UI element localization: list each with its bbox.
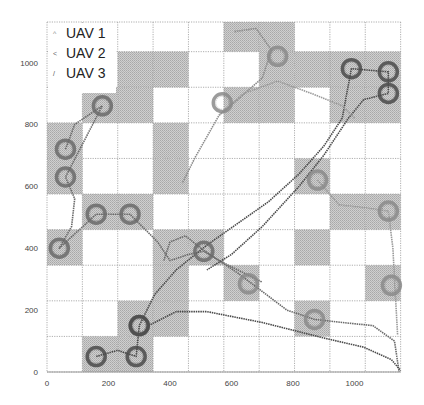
x-tick-label: 600 xyxy=(225,379,239,388)
shaded-cell xyxy=(153,265,188,301)
shaded-cell xyxy=(118,52,153,88)
shaded-cell xyxy=(47,230,82,266)
legend-label: UAV 3 xyxy=(66,65,106,81)
y-tick-label: 600 xyxy=(25,182,39,191)
shaded-cell xyxy=(224,265,259,301)
x-tick-label: 200 xyxy=(102,379,116,388)
legend-label: UAV 1 xyxy=(66,25,106,41)
x-tick-label: 800 xyxy=(286,379,300,388)
shaded-cell xyxy=(153,123,188,159)
shaded-cell xyxy=(295,52,330,88)
shaded-cell xyxy=(295,230,330,266)
shaded-cell xyxy=(365,87,400,123)
shaded-cell xyxy=(224,22,259,52)
y-axis-ticks: 02004006008001000 xyxy=(20,59,38,378)
shaded-cell xyxy=(330,87,365,123)
legend: ^UAV 1<UAV 2/UAV 3 xyxy=(48,23,116,93)
shaded-cell xyxy=(153,301,188,337)
legend-marker-icon: < xyxy=(53,50,57,57)
x-tick-label: 400 xyxy=(163,379,177,388)
x-tick-label: 0 xyxy=(45,379,50,388)
shaded-cell xyxy=(365,194,400,230)
shaded-cell xyxy=(153,158,188,194)
trajectory-path xyxy=(59,106,399,372)
shaded-cell xyxy=(153,230,188,266)
x-tick-label: 1000 xyxy=(346,379,364,388)
y-tick-label: 200 xyxy=(25,306,39,315)
shaded-cell xyxy=(47,158,82,194)
shaded-cell xyxy=(224,87,259,123)
legend-marker-icon: / xyxy=(53,70,55,77)
shaded-cell xyxy=(118,87,153,123)
x-axis-ticks: 02004006008001000 xyxy=(45,379,364,388)
y-tick-label: 400 xyxy=(25,244,39,253)
legend-label: UAV 2 xyxy=(66,45,106,61)
y-tick-label: 0 xyxy=(34,368,39,377)
shaded-cell xyxy=(259,87,294,123)
trajectory-chart: 02004006008001000 02004006008001000 ^UAV… xyxy=(0,0,424,405)
shaded-cell xyxy=(153,52,188,88)
y-tick-label: 800 xyxy=(25,120,39,129)
y-tick-label: 1000 xyxy=(20,59,38,68)
